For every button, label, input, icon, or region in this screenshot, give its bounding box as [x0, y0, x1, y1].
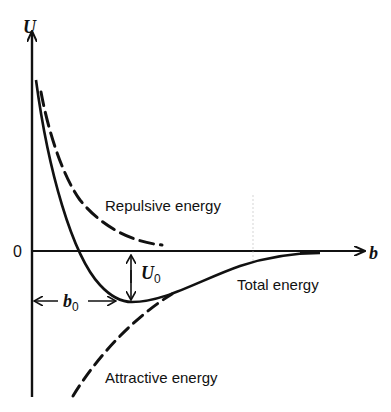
- total-energy-curve: [36, 80, 320, 302]
- b0-subscript: 0: [72, 300, 79, 314]
- repulsive-energy-label: Repulsive energy: [105, 198, 221, 213]
- u0-label: U0: [141, 264, 161, 285]
- b0-symbol: b: [63, 291, 72, 311]
- repulsive-energy-curve: [41, 92, 162, 245]
- x-axis-label: b: [369, 244, 378, 262]
- u0-symbol: U: [141, 263, 154, 283]
- u0-subscript: 0: [154, 272, 161, 286]
- origin-label: 0: [13, 244, 22, 260]
- attractive-energy-label: Attractive energy: [105, 370, 218, 385]
- b0-label: b0: [62, 292, 80, 313]
- y-axis-label: U: [23, 18, 36, 36]
- total-energy-label: Total energy: [237, 277, 319, 292]
